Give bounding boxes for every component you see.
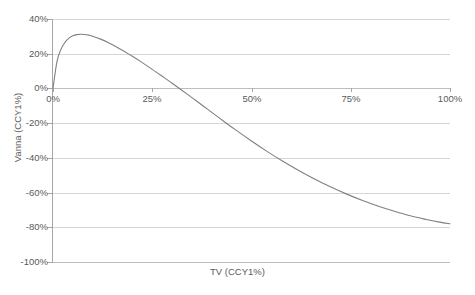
chart-container: Vanna (CCY1%) 40%20%0%-20%-40%-60%-80%-1… bbox=[0, 0, 475, 295]
x-axis-title: TV (CCY1%) bbox=[0, 266, 475, 277]
series-line-vanna bbox=[53, 34, 450, 224]
plot-area bbox=[0, 0, 475, 295]
